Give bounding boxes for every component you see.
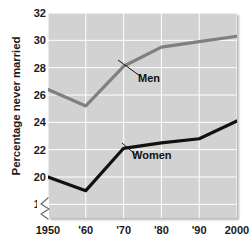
- chart-figure: Percentage never married 182022242628303…: [0, 0, 252, 249]
- plot-svg: [48, 13, 237, 218]
- y-axis-tick-label: 24: [20, 116, 46, 128]
- y-axis-tick-label: 30: [20, 34, 46, 46]
- annotation-leader-lines: [118, 60, 140, 155]
- y-axis-tick-label: 22: [20, 144, 46, 156]
- y-axis-tick-labels: 1820222426283032: [20, 0, 46, 225]
- x-axis-tick-label: 2000: [215, 224, 252, 236]
- x-axis-tick-labels: 1950'60'70'80'902000: [0, 224, 252, 244]
- y-axis-tick-label: 28: [20, 62, 46, 74]
- plot-area: [48, 13, 237, 218]
- y-axis-break-icon: [36, 196, 54, 220]
- data-series-lines: [48, 36, 237, 190]
- series-label-men: Men: [138, 72, 160, 84]
- y-axis-tick-label: 26: [20, 89, 46, 101]
- y-axis-title-container: Percentage never married: [0, 0, 22, 220]
- series-label-women: Women: [132, 149, 172, 161]
- y-axis-tick-label: 32: [20, 7, 46, 19]
- y-axis-tick-label: 20: [20, 171, 46, 183]
